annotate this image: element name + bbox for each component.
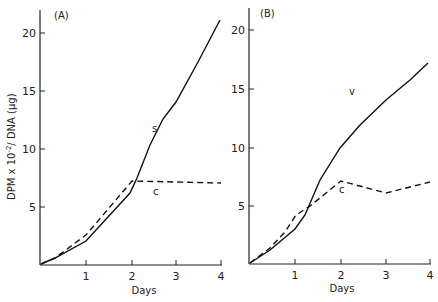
x-tick-label: 3	[383, 269, 390, 282]
x-tick-label: 4	[218, 270, 225, 283]
series-s-line	[41, 20, 220, 264]
x-tick-label: 2	[129, 270, 136, 283]
series-label-c: c	[153, 186, 159, 197]
series-v-line	[250, 63, 428, 263]
y-tick-label: 15	[22, 85, 36, 98]
panel-label-a: (A)	[54, 10, 69, 21]
series-label-v: v	[349, 86, 355, 97]
x-tick-label: 4	[427, 269, 434, 282]
y-tick-label: 15	[231, 83, 245, 96]
y-tick-label: 10	[22, 143, 36, 156]
x-tick-label: 3	[173, 270, 180, 283]
series-label-c: c	[339, 184, 345, 195]
y-tick-label: 5	[29, 201, 36, 214]
y-tick-label: 20	[22, 27, 36, 40]
x-axis-label: Days	[330, 283, 355, 294]
x-tick-label: 1	[83, 270, 90, 283]
y-tick-label: 5	[238, 200, 245, 213]
series-label-s: s	[152, 123, 157, 134]
x-axis-label: Days	[132, 285, 157, 296]
panel-label-b: (B)	[260, 8, 275, 19]
x-tick-label: 2	[338, 269, 345, 282]
y-tick-label: 20	[231, 24, 245, 37]
y-axis-label: DPM x 10-2/ DNA (µg)	[5, 93, 17, 200]
panel-a: 20 15 10 5 1 2 3 4 Days (A) DPM x 10-2/ …	[5, 10, 225, 296]
figure: 20 15 10 5 1 2 3 4 Days (A) DPM x 10-2/ …	[0, 0, 438, 302]
y-tick-label: 10	[231, 142, 245, 155]
panel-b: 20 15 10 5 1 2 3 4 Days (B) v c	[231, 8, 434, 294]
x-tick-label: 1	[292, 269, 299, 282]
